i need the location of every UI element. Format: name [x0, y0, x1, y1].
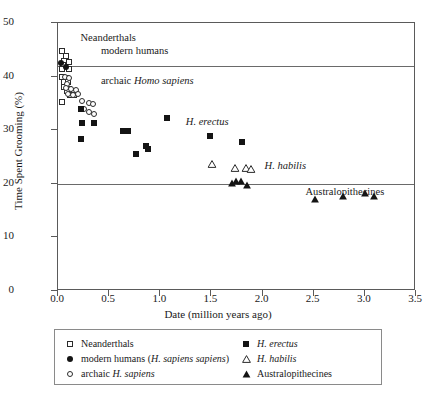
legend-column-right: H. erectusH. habilisAustralopithecines — [240, 336, 332, 381]
data-point — [78, 106, 84, 112]
x-tick-mark-2.5 — [313, 290, 314, 296]
legend-item-label: Neanderthals — [81, 338, 134, 349]
legend-item[interactable]: H. habilis — [240, 351, 332, 366]
y-axis-title: Time Spent Grooming (%) — [12, 56, 24, 246]
open-circle-icon — [64, 371, 76, 377]
data-point — [79, 120, 85, 126]
legend-item-label: archaic H. sapiens — [81, 368, 155, 379]
data-point — [91, 120, 97, 126]
annotation-archaic-homo-sapiens: archaic Homo sapiens — [101, 75, 194, 86]
x-tick-mark-0.5 — [108, 290, 109, 296]
y-tick-label-0: 0 — [9, 284, 15, 295]
grooming-time-scatter-figure: Time Spent Grooming (%) Date (million ye… — [0, 0, 436, 395]
open-triangle-icon — [240, 355, 252, 363]
data-point — [78, 136, 84, 142]
gridline-y-42 — [58, 66, 414, 67]
y-tick-label-30: 30 — [3, 123, 14, 134]
data-point — [91, 111, 97, 117]
data-point — [125, 128, 131, 134]
data-point — [63, 64, 69, 70]
x-tick-mark-1.0 — [159, 290, 160, 296]
annotation-modern-humans: modern humans — [101, 45, 168, 56]
legend-item[interactable]: Australopithecines — [240, 366, 332, 381]
x-axis-title: Date (million years ago) — [0, 308, 436, 320]
data-point — [79, 98, 85, 104]
annotation-neanderthals: Neanderthals — [81, 32, 136, 43]
x-tick-mark-0.0 — [57, 290, 58, 296]
data-point — [133, 151, 139, 157]
legend-item[interactable]: modern humans (H. sapiens sapiens) — [64, 351, 229, 366]
x-tick-mark-1.5 — [210, 290, 211, 296]
data-point — [207, 133, 213, 139]
filled-square-icon — [240, 341, 252, 347]
y-tick-label-50: 50 — [3, 16, 14, 27]
y-tick-label-10: 10 — [3, 230, 14, 241]
legend-item-label: H. habilis — [257, 353, 296, 364]
data-point — [208, 154, 217, 172]
x-tick-mark-2.0 — [262, 290, 263, 296]
annotation-h-habilis: H. habilis — [265, 160, 306, 171]
annotation-australopithecines: Australopithecines — [306, 186, 385, 197]
filled-circle-icon — [64, 356, 76, 362]
legend-item[interactable]: archaic H. sapiens — [64, 366, 229, 381]
data-point — [59, 99, 65, 105]
legend-item[interactable]: Neanderthals — [64, 336, 229, 351]
data-point — [90, 101, 96, 107]
annotation-h-erectus: H. erectus — [186, 116, 229, 127]
y-tick-label-20: 20 — [3, 177, 14, 188]
legend-item-label: H. erectus — [257, 338, 298, 349]
plot-area: Neanderthalsmodern humansarchaic Homo sa… — [57, 22, 415, 290]
data-point — [239, 139, 245, 145]
filled-triangle-icon — [240, 370, 252, 378]
data-point — [242, 175, 251, 193]
open-square-icon — [64, 341, 76, 347]
legend-item[interactable]: H. erectus — [240, 336, 332, 351]
legend-item-label: modern humans (H. sapiens sapiens) — [81, 353, 229, 364]
data-point — [75, 91, 81, 97]
x-tick-mark-3.5 — [415, 290, 416, 296]
legend-item-label: Australopithecines — [257, 368, 332, 379]
data-point — [145, 146, 151, 152]
legend: Neanderthalsmodern humans (H. sapiens sa… — [54, 329, 382, 385]
data-point — [164, 115, 170, 121]
y-tick-label-40: 40 — [3, 70, 14, 81]
x-tick-mark-3.0 — [364, 290, 365, 296]
legend-column-left: Neanderthalsmodern humans (H. sapiens sa… — [64, 336, 229, 381]
